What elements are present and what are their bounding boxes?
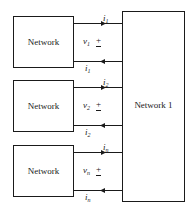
polarity-plus: + bbox=[96, 99, 101, 109]
voltage-label: v1 bbox=[83, 36, 90, 47]
arrow-left-icon bbox=[100, 123, 105, 128]
current-label-top: i2 bbox=[103, 77, 109, 88]
sub-network-label: Network bbox=[28, 166, 60, 176]
arrow-left-icon bbox=[100, 59, 105, 64]
voltage-label: vn bbox=[83, 165, 90, 176]
current-label-bottom: i1 bbox=[85, 63, 91, 74]
sub-network-label: Network bbox=[28, 101, 60, 111]
current-label-bottom: in bbox=[85, 192, 91, 203]
current-label-bottom: i2 bbox=[85, 127, 91, 138]
port-2: Networki2i2v2+ bbox=[14, 77, 123, 138]
port-1: Networki1i1v1+ bbox=[14, 13, 123, 74]
voltage-label: v2 bbox=[83, 100, 90, 111]
multiport-network-diagram: Network 1 Networki1i1v1+Networki2i2v2+Ne… bbox=[0, 0, 193, 212]
current-label-top: i1 bbox=[103, 13, 109, 24]
port-3: Networkininvn+ bbox=[14, 142, 123, 203]
arrow-left-icon bbox=[100, 188, 105, 193]
sub-network-label: Network bbox=[28, 37, 60, 47]
polarity-plus: + bbox=[96, 35, 101, 45]
current-label-top: in bbox=[103, 142, 109, 153]
network-1-label: Network 1 bbox=[134, 100, 172, 110]
polarity-plus: + bbox=[96, 164, 101, 174]
